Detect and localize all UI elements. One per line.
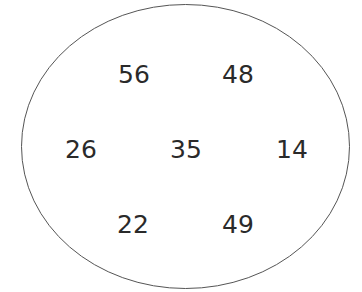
diagram-canvas: 56 48 26 35 14 22 49 (0, 0, 362, 292)
number-bottom-right: 49 (222, 212, 254, 237)
number-middle-left: 26 (65, 137, 97, 162)
number-bottom-left: 22 (117, 212, 149, 237)
number-top-left: 56 (118, 62, 150, 87)
number-top-right: 48 (222, 62, 254, 87)
number-middle-right: 14 (276, 137, 308, 162)
number-center: 35 (170, 137, 202, 162)
